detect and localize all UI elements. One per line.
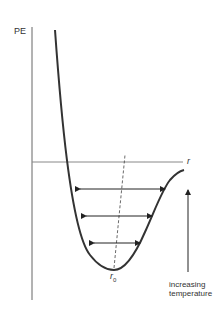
- equilibrium-dashed-line: [114, 155, 125, 268]
- temperature-annotation: increasingtemperature: [169, 280, 212, 298]
- potential-curve: [55, 30, 184, 270]
- equilibrium-label: r0: [110, 271, 116, 283]
- x-axis-label: r: [187, 156, 190, 166]
- y-axis-label: PE: [14, 26, 26, 36]
